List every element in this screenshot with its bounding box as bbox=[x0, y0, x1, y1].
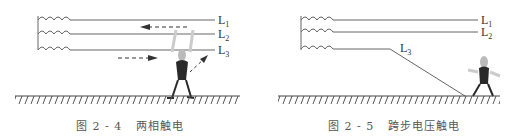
caption-number: 图 2 - 5 bbox=[328, 120, 374, 133]
caption-title: 两相触电 bbox=[136, 120, 184, 133]
power-lines bbox=[333, 20, 478, 96]
figure-2-4: L1 L2 L3 bbox=[15, 13, 240, 104]
caption-title: 跨步电压触电 bbox=[388, 120, 460, 133]
person-icon bbox=[167, 30, 194, 98]
coils-icon bbox=[301, 16, 333, 50]
ground-hatch bbox=[15, 96, 240, 104]
person-icon bbox=[468, 56, 500, 96]
caption-fig-2-4: 图 2 - 4 两相触电 bbox=[76, 117, 184, 133]
ground-hatch bbox=[278, 96, 500, 104]
figure-2-5: L1 L2 L3 bbox=[278, 13, 500, 104]
broken-wire-l3 bbox=[390, 49, 465, 96]
coils-icon bbox=[38, 16, 70, 50]
svg-text:L3: L3 bbox=[400, 41, 411, 57]
svg-text:L2: L2 bbox=[218, 27, 229, 43]
caption-fig-2-5: 图 2 - 5 跨步电压触电 bbox=[328, 117, 460, 133]
svg-text:L3: L3 bbox=[218, 43, 229, 59]
caption-number: 图 2 - 4 bbox=[76, 120, 122, 133]
